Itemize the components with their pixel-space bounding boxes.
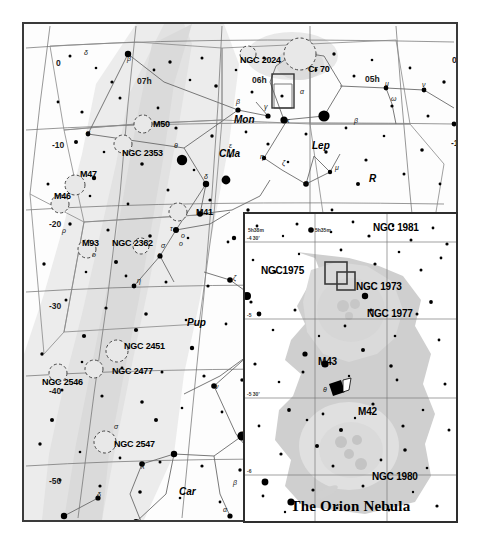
inset-title: The Orion Nebula bbox=[245, 498, 456, 515]
star-chart-page: NGC 2024 Cr 70 M50 NGC 2353 M47 M46 M41 … bbox=[0, 0, 478, 550]
inset-canvas bbox=[245, 214, 456, 521]
orion-nebula-inset-panel[interactable]: NGC 1981 NGC1975 NGC 1973 NGC 1977 M43 M… bbox=[243, 212, 458, 523]
